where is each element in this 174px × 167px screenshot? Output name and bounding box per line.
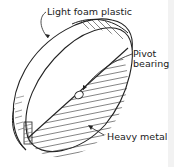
label-heavy-metal: Heavy metal — [107, 132, 167, 142]
label-bearing: bearing — [133, 59, 169, 69]
label-light-foam-plastic: Light foam plastic — [47, 7, 132, 17]
